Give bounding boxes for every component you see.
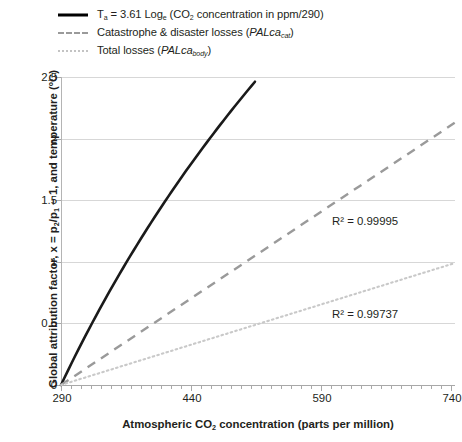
chart-figure: Ta = 3.61 Loge (CO2 concentration in ppm… [0, 0, 462, 442]
x-axis-title: Atmospheric CO2 concentration (parts per… [61, 418, 455, 430]
series-line-temperature [61, 82, 255, 385]
series-line-catastrophe-losses [61, 123, 455, 385]
annotation-r2-dotted: R² = 0.99737 [332, 308, 398, 320]
series-line-total-losses [61, 263, 455, 385]
y-axis-title: Global attribution factor, x = p2/p1 − 1… [47, 69, 59, 389]
annotation-r2-dashed: R² = 0.99995 [332, 215, 398, 227]
